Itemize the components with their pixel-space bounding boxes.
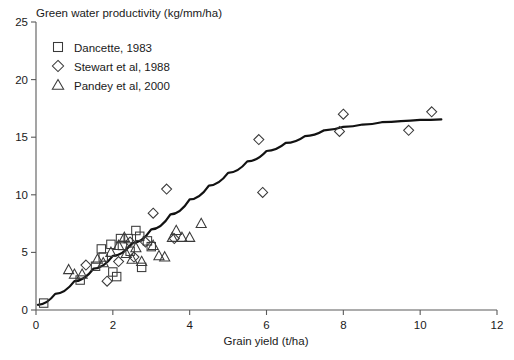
- x-axis-ticks: 024681012: [33, 310, 504, 331]
- marker-diamond: [338, 109, 348, 119]
- x-axis-title: Grain yield (t/ha): [223, 335, 308, 347]
- legend-item-diamond: Stewart et al, 1988: [52, 60, 170, 72]
- legend-label: Dancette, 1983: [74, 42, 152, 54]
- marker-square: [137, 263, 145, 271]
- x-tick-label: 4: [186, 319, 193, 331]
- y-axis-ticks: 0510152025: [15, 16, 36, 316]
- x-tick-label: 0: [33, 319, 39, 331]
- legend-diamond-icon: [52, 60, 63, 71]
- y-tick-label: 0: [22, 304, 28, 316]
- marker-diamond: [102, 276, 112, 286]
- marker-diamond: [254, 135, 264, 145]
- marker-triangle: [196, 218, 206, 227]
- legend-label: Stewart et al, 1988: [74, 61, 170, 73]
- y-tick-label: 20: [15, 74, 28, 86]
- legend-label: Pandey et al, 2000: [74, 80, 170, 92]
- marker-diamond: [258, 187, 268, 197]
- marker-square: [97, 245, 105, 253]
- legend-square-icon: [54, 43, 63, 52]
- marker-diamond: [404, 125, 414, 135]
- x-tick-label: 12: [491, 319, 504, 331]
- x-tick-label: 6: [263, 319, 269, 331]
- y-tick-label: 15: [15, 131, 28, 143]
- chart-title: Green water productivity (kg/mm/ha): [36, 7, 222, 19]
- marker-diamond: [148, 208, 158, 218]
- legend-item-square: Dancette, 1983: [54, 42, 153, 54]
- y-tick-label: 5: [22, 246, 28, 258]
- series-dancette-1983-markers: [39, 226, 155, 307]
- marker-diamond: [162, 184, 172, 194]
- fitted-curve: [38, 119, 441, 304]
- legend-item-triangle: Pandey et al, 2000: [52, 80, 170, 92]
- legend-triangle-icon: [52, 80, 63, 90]
- x-tick-label: 10: [414, 319, 427, 331]
- scatter-plot: Green water productivity (kg/mm/ha) 0510…: [0, 0, 514, 360]
- x-tick-label: 2: [110, 319, 116, 331]
- y-tick-label: 25: [15, 16, 28, 28]
- marker-diamond: [427, 107, 437, 117]
- series-stewart-1988-markers: [81, 107, 437, 286]
- chart-figure: Green water productivity (kg/mm/ha) 0510…: [0, 0, 514, 360]
- chart-legend: Dancette, 1983Stewart et al, 1988Pandey …: [52, 42, 170, 92]
- marker-triangle: [167, 232, 177, 241]
- x-tick-label: 8: [340, 319, 346, 331]
- y-tick-label: 10: [15, 189, 28, 201]
- marker-diamond: [114, 257, 124, 267]
